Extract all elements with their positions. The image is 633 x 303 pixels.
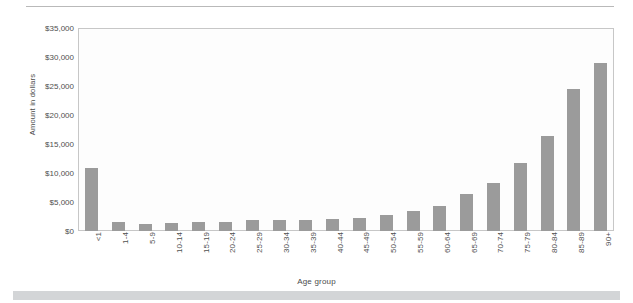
y-axis-tick-label: $0 bbox=[0, 227, 74, 236]
bar bbox=[273, 220, 286, 231]
bar bbox=[219, 222, 232, 231]
x-axis-tick-label: 10-14 bbox=[175, 232, 184, 253]
bar bbox=[433, 206, 446, 231]
x-axis-tick-label: 35-39 bbox=[309, 232, 318, 253]
bar bbox=[567, 89, 580, 231]
y-axis-tick-label: $20,000 bbox=[0, 111, 74, 120]
bar-chart: Amount in dollars $0$5,000$10,000$15,000… bbox=[0, 0, 633, 291]
bar bbox=[514, 163, 527, 231]
bar bbox=[192, 222, 205, 231]
bar-series bbox=[78, 28, 614, 231]
y-axis-tick-label: $15,000 bbox=[0, 140, 74, 149]
x-axis-tick-label: 25-29 bbox=[255, 232, 264, 253]
bar bbox=[460, 194, 473, 231]
bar bbox=[594, 63, 607, 231]
x-axis-tick-label: 40-44 bbox=[336, 232, 345, 253]
y-axis-tick-label: $30,000 bbox=[0, 53, 74, 62]
bar bbox=[353, 218, 366, 231]
x-axis-tick-label: 50-54 bbox=[389, 232, 398, 253]
bar bbox=[541, 136, 554, 231]
bar bbox=[407, 211, 420, 231]
x-axis-tick-label: 85-89 bbox=[577, 232, 586, 253]
bar bbox=[112, 222, 125, 231]
bar bbox=[165, 223, 178, 231]
x-axis-tick-label: 45-49 bbox=[362, 232, 371, 253]
x-axis-title: Age group bbox=[0, 277, 633, 286]
x-axis-tick-label: 55-59 bbox=[416, 232, 425, 253]
x-axis-tick-label: 60-64 bbox=[443, 232, 452, 253]
x-axis-tick-label: 75-79 bbox=[523, 232, 532, 253]
x-axis-tick-labels: <11-45-910-1415-1920-2425-2930-3435-3940… bbox=[78, 232, 614, 276]
x-axis-tick-label: 30-34 bbox=[282, 232, 291, 253]
bar bbox=[85, 168, 98, 231]
bar bbox=[246, 220, 259, 231]
x-axis-tick-label: <1 bbox=[94, 232, 103, 241]
y-axis-tick-label: $5,000 bbox=[0, 198, 74, 207]
y-axis-tick-label: $25,000 bbox=[0, 82, 74, 91]
x-axis-tick-label: 20-24 bbox=[228, 232, 237, 253]
y-axis-tick-label: $35,000 bbox=[0, 24, 74, 33]
x-axis-tick-label: 70-74 bbox=[496, 232, 505, 253]
bar bbox=[299, 220, 312, 231]
bar bbox=[326, 219, 339, 231]
bar bbox=[139, 224, 152, 231]
bar bbox=[380, 215, 393, 231]
x-axis-tick-label: 1-4 bbox=[121, 232, 130, 244]
x-axis-tick-label: 15-19 bbox=[202, 232, 211, 253]
bar bbox=[487, 183, 500, 231]
x-axis-tick-label: 65-69 bbox=[470, 232, 479, 253]
page-bottom-band bbox=[13, 291, 620, 300]
chart-page: Amount in dollars $0$5,000$10,000$15,000… bbox=[0, 0, 633, 303]
x-axis-tick-label: 5-9 bbox=[148, 232, 157, 244]
y-axis-tick-label: $10,000 bbox=[0, 169, 74, 178]
x-axis-tick-label: 90+ bbox=[604, 232, 613, 246]
x-axis-tick-label: 80-84 bbox=[550, 232, 559, 253]
